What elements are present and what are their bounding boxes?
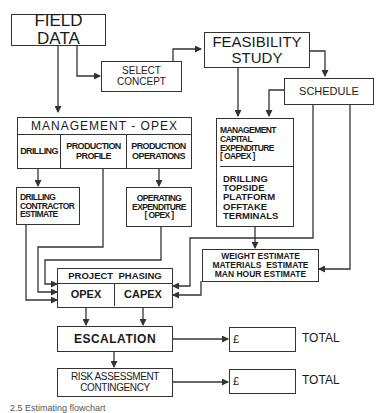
select-concept-box: SELECT CONCEPT xyxy=(101,61,182,92)
capex-bottom-line-5: TERMINALS xyxy=(223,211,278,220)
risk-line-1: RISK ASSESSMENT xyxy=(71,372,159,383)
management-capex-box: MANAGEMENT CAPITAL EXPENDITURE [ OAPEX ]… xyxy=(216,118,294,227)
man-hour-estimate: MAN HOUR ESTIMATE xyxy=(215,270,306,279)
phasing-opex: OPEX xyxy=(58,284,115,306)
opex-cell-production-profile: PRODUCTION PROFILE xyxy=(61,135,127,168)
phasing-capex: CAPEX xyxy=(115,284,171,306)
project-phasing-title: PROJECT PHASING xyxy=(58,269,172,284)
risk-line-2: CONTINGENCY xyxy=(80,383,150,394)
risk-assessment-box: RISK ASSESSMENT CONTINGENCY xyxy=(57,368,173,397)
select-concept-line-2: CONCEPT xyxy=(117,77,166,88)
opex-cell-production-operations: PRODUCTION OPERATIONS xyxy=(127,135,190,168)
management-opex-title: MANAGEMENT - OPEX xyxy=(18,118,191,135)
select-concept-line-1: SELECT xyxy=(122,66,161,77)
schedule-label: SCHEDULE xyxy=(299,86,359,98)
drilling-contractor-line-3: ESTIMATE xyxy=(20,210,58,219)
currency-symbol: £ xyxy=(233,376,239,388)
management-capex-bottom: DRILLING TOPSIDE PLATFORM OFFTAKE TERMIN… xyxy=(223,169,293,225)
figure-caption: 2.5 Estimating flowchart xyxy=(10,403,106,413)
feasibility-line-2: STUDY xyxy=(232,50,283,66)
capex-top-line-4: [ OAPEX ] xyxy=(220,152,255,161)
feasibility-study-box: FEASIBILITY STUDY xyxy=(204,32,310,68)
total-escalation-label: TOTAL xyxy=(302,331,340,345)
field-data-label: FIELD DATA xyxy=(12,12,105,48)
management-capex-top: MANAGEMENT CAPITAL EXPENDITURE [ OAPEX ] xyxy=(220,121,294,167)
escalation-box: ESCALATION xyxy=(57,326,173,352)
total-escalation-field: £ xyxy=(229,327,296,352)
feasibility-line-1: FEASIBILITY xyxy=(212,34,301,50)
management-opex-box: MANAGEMENT - OPEX DRILLING PRODUCTION PR… xyxy=(17,117,192,169)
escalation-label: ESCALATION xyxy=(74,333,156,346)
operating-expenditure-box: OPERATING EXPENDITURE [ OPEX ] xyxy=(126,187,192,227)
currency-symbol: £ xyxy=(233,334,239,346)
drilling-contractor-box: DRILLING CONTRACTOR ESTIMATE xyxy=(16,187,80,225)
schedule-box: SCHEDULE xyxy=(284,78,374,105)
total-risk-field: £ xyxy=(229,369,296,394)
estimates-box: WEIGHT ESTIMATE MATERIALS ESTIMATE MAN H… xyxy=(202,249,319,282)
total-risk-label: TOTAL xyxy=(302,373,340,387)
field-data-box: FIELD DATA xyxy=(11,14,106,46)
operating-expenditure-line-3: [ OPEX ] xyxy=(144,211,173,220)
project-phasing-box: PROJECT PHASING OPEX CAPEX xyxy=(57,268,173,308)
opex-cell-drilling: DRILLING xyxy=(18,135,61,168)
